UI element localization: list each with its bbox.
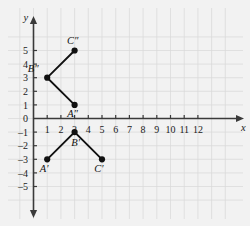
y-tick-label: –1: [17, 127, 28, 138]
y-tick-label: –4: [17, 168, 28, 179]
x-tick-label: 2: [58, 124, 63, 135]
y-tick-label: –5: [17, 181, 28, 192]
x-tick-label: 9: [154, 124, 159, 135]
data-point-label: A″: [66, 108, 78, 119]
x-tick-label: 6: [113, 124, 118, 135]
x-tick-label: 7: [127, 124, 132, 135]
data-point-label: B′: [71, 137, 80, 148]
x-axis-label: x: [240, 122, 246, 133]
data-point: [44, 156, 50, 162]
data-point: [99, 156, 105, 162]
y-tick-label: 1: [23, 100, 28, 111]
coordinate-graph: 123456789101112543210–1–2–3–4–5 xy C″B″A…: [0, 0, 250, 226]
x-tick-label: 10: [166, 124, 176, 135]
x-tick-label: 1: [45, 124, 50, 135]
data-point: [72, 47, 78, 53]
y-tick-label: –3: [17, 154, 28, 165]
y-tick-label: 2: [23, 86, 28, 97]
y-tick-label: 3: [23, 72, 28, 83]
y-tick-label: 5: [23, 45, 28, 56]
figure-background: [0, 0, 250, 226]
data-point: [44, 75, 50, 81]
x-tick-label: 11: [179, 124, 189, 135]
x-tick-label: 5: [100, 124, 105, 135]
x-tick-label: 12: [193, 124, 203, 135]
data-point-label: B″: [28, 63, 39, 74]
origin-label: 0: [23, 113, 28, 124]
x-tick-label: 4: [86, 124, 91, 135]
y-tick-label: –2: [17, 140, 28, 151]
data-point: [72, 129, 78, 135]
x-tick-label: 8: [141, 124, 146, 135]
data-point-label: C″: [67, 35, 79, 46]
data-point-label: C′: [94, 163, 104, 174]
coordinate-plane-figure: 123456789101112543210–1–2–3–4–5 xy C″B″A…: [0, 0, 250, 226]
y-axis-label: y: [23, 12, 29, 23]
data-point-label: A′: [39, 163, 49, 174]
